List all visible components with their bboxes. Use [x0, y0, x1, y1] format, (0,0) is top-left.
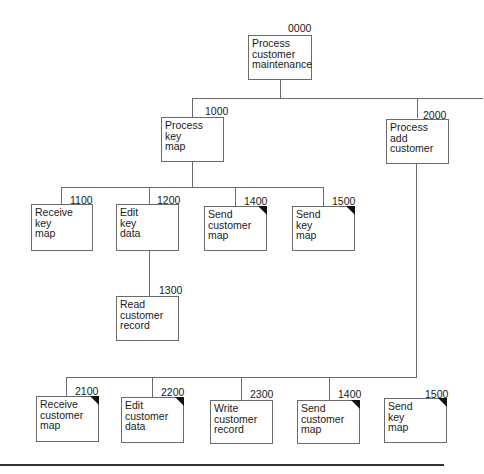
module-process-key-map: Process key map	[161, 117, 224, 162]
module-number: 1000	[205, 106, 228, 116]
module-label: Send customer map	[208, 209, 263, 241]
module-number: 1300	[159, 285, 182, 295]
connector	[192, 98, 483, 99]
module-label: Edit customer data	[125, 400, 180, 432]
connector	[280, 79, 281, 99]
module-label: Process add customer	[390, 122, 445, 154]
module-label: Edit key data	[120, 207, 175, 239]
module-number: 1500	[332, 196, 355, 206]
module-label: Process key map	[165, 120, 220, 152]
module-number: 2100	[75, 386, 98, 396]
module-send-key-map: Send key map	[292, 206, 355, 251]
connector	[329, 377, 330, 400]
common-module-marker-icon	[90, 396, 99, 405]
module-number: 0000	[288, 23, 311, 33]
common-module-marker-icon	[258, 206, 267, 215]
module-label: Receive key map	[35, 207, 89, 239]
module-send-key-map-2: Send key map	[384, 398, 447, 443]
connector	[416, 163, 417, 378]
connector	[417, 98, 418, 118]
common-module-marker-icon	[346, 206, 355, 215]
module-label: Send key map	[296, 209, 351, 241]
bottom-rule-divider	[0, 464, 444, 466]
module-send-customer-map: Send customer map	[204, 206, 267, 251]
module-label: Send customer map	[301, 403, 356, 435]
module-send-customer-map-2: Send customer map	[297, 400, 360, 444]
module-edit-customer-data: Edit customer data	[121, 397, 184, 443]
connector	[235, 187, 236, 206]
module-read-customer-record: Read customer record	[116, 296, 179, 341]
module-number: 2200	[161, 387, 184, 397]
connector	[152, 377, 153, 398]
common-module-marker-icon	[175, 397, 184, 406]
module-write-customer-record: Write customer record	[210, 400, 273, 444]
module-process-add-customer: Process add customer	[386, 119, 449, 164]
module-label: Process customer maintenance	[252, 38, 308, 70]
common-module-marker-icon	[438, 398, 447, 407]
connector	[61, 187, 324, 188]
connector	[149, 187, 150, 204]
connector	[241, 377, 242, 400]
connector	[66, 377, 67, 396]
connector	[192, 161, 193, 188]
module-label: Send key map	[388, 401, 443, 433]
connector	[192, 98, 193, 117]
connector	[149, 250, 150, 296]
module-label: Receive customer map	[40, 399, 95, 431]
module-number: 2300	[250, 389, 273, 399]
connector	[323, 187, 324, 206]
common-module-marker-icon	[351, 400, 360, 409]
connector	[61, 187, 62, 204]
module-process-customer-maintenance: Process customer maintenance	[248, 35, 312, 80]
module-receive-customer-map: Receive customer map	[36, 396, 99, 442]
module-number: 1400	[338, 389, 361, 399]
module-receive-key-map: Receive key map	[31, 204, 93, 251]
module-label: Read customer record	[120, 299, 175, 331]
module-label: Write customer record	[214, 403, 269, 435]
module-number: 1400	[244, 196, 267, 206]
module-edit-key-data: Edit key data	[116, 204, 179, 251]
